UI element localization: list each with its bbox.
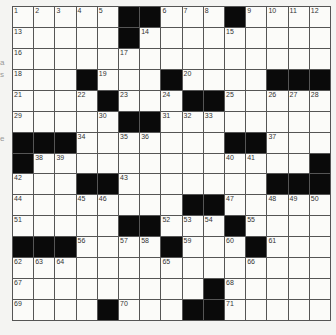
grid-cell[interactable]: 66 — [246, 258, 266, 278]
grid-cell[interactable]: 35 — [119, 133, 139, 153]
grid-cell[interactable] — [140, 279, 160, 299]
grid-cell[interactable]: 30 — [98, 112, 118, 132]
grid-cell[interactable] — [34, 70, 54, 90]
grid-cell[interactable]: 34 — [77, 133, 97, 153]
grid-cell[interactable] — [310, 258, 330, 278]
grid-cell[interactable] — [246, 28, 266, 48]
grid-cell[interactable]: 37 — [267, 133, 287, 153]
grid-cell[interactable] — [267, 216, 287, 236]
grid-cell[interactable]: 60 — [225, 237, 245, 257]
grid-cell[interactable] — [161, 174, 181, 194]
grid-cell[interactable] — [140, 300, 160, 320]
grid-cell[interactable]: 61 — [267, 237, 287, 257]
grid-cell[interactable] — [77, 258, 97, 278]
grid-cell[interactable] — [204, 258, 224, 278]
grid-cell[interactable] — [183, 154, 203, 174]
grid-cell[interactable]: 68 — [225, 279, 245, 299]
grid-cell[interactable] — [246, 300, 266, 320]
grid-cell[interactable] — [289, 279, 309, 299]
grid-cell[interactable]: 7 — [183, 7, 203, 27]
grid-cell[interactable]: 56 — [77, 237, 97, 257]
grid-cell[interactable] — [140, 174, 160, 194]
grid-cell[interactable] — [204, 133, 224, 153]
grid-cell[interactable] — [267, 28, 287, 48]
grid-cell[interactable] — [55, 112, 75, 132]
grid-cell[interactable] — [140, 49, 160, 69]
grid-cell[interactable] — [183, 28, 203, 48]
grid-cell[interactable] — [34, 49, 54, 69]
grid-cell[interactable] — [98, 49, 118, 69]
grid-cell[interactable] — [98, 133, 118, 153]
grid-cell[interactable] — [246, 49, 266, 69]
grid-cell[interactable]: 16 — [13, 49, 33, 69]
grid-cell[interactable]: 64 — [55, 258, 75, 278]
grid-cell[interactable] — [310, 49, 330, 69]
grid-cell[interactable] — [225, 70, 245, 90]
grid-cell[interactable]: 20 — [183, 70, 203, 90]
grid-cell[interactable] — [161, 154, 181, 174]
grid-cell[interactable]: 1 — [13, 7, 33, 27]
grid-cell[interactable] — [34, 174, 54, 194]
grid-cell[interactable] — [77, 28, 97, 48]
grid-cell[interactable] — [246, 174, 266, 194]
grid-cell[interactable] — [310, 216, 330, 236]
grid-cell[interactable]: 63 — [34, 258, 54, 278]
grid-cell[interactable]: 43 — [119, 174, 139, 194]
grid-cell[interactable] — [204, 174, 224, 194]
grid-cell[interactable] — [225, 49, 245, 69]
grid-cell[interactable]: 9 — [246, 7, 266, 27]
grid-cell[interactable] — [161, 28, 181, 48]
grid-cell[interactable] — [161, 195, 181, 215]
grid-cell[interactable] — [34, 300, 54, 320]
grid-cell[interactable] — [34, 216, 54, 236]
grid-cell[interactable] — [77, 112, 97, 132]
grid-cell[interactable]: 45 — [77, 195, 97, 215]
grid-cell[interactable]: 14 — [140, 28, 160, 48]
grid-cell[interactable]: 62 — [13, 258, 33, 278]
grid-cell[interactable]: 13 — [13, 28, 33, 48]
grid-cell[interactable] — [246, 70, 266, 90]
grid-cell[interactable]: 47 — [225, 195, 245, 215]
grid-cell[interactable] — [77, 49, 97, 69]
grid-cell[interactable] — [34, 195, 54, 215]
grid-cell[interactable] — [119, 70, 139, 90]
grid-cell[interactable]: 4 — [77, 7, 97, 27]
grid-cell[interactable] — [289, 300, 309, 320]
grid-cell[interactable] — [119, 279, 139, 299]
grid-cell[interactable] — [140, 154, 160, 174]
grid-cell[interactable]: 21 — [13, 91, 33, 111]
grid-cell[interactable] — [34, 279, 54, 299]
grid-cell[interactable] — [55, 279, 75, 299]
grid-cell[interactable] — [267, 258, 287, 278]
grid-cell[interactable] — [161, 279, 181, 299]
grid-cell[interactable] — [204, 154, 224, 174]
grid-cell[interactable]: 29 — [13, 112, 33, 132]
grid-cell[interactable] — [140, 195, 160, 215]
grid-cell[interactable]: 57 — [119, 237, 139, 257]
grid-cell[interactable] — [225, 112, 245, 132]
grid-cell[interactable] — [289, 133, 309, 153]
grid-cell[interactable] — [183, 279, 203, 299]
grid-cell[interactable] — [204, 28, 224, 48]
grid-cell[interactable] — [183, 133, 203, 153]
grid-cell[interactable] — [140, 258, 160, 278]
grid-cell[interactable]: 58 — [140, 237, 160, 257]
grid-cell[interactable] — [310, 237, 330, 257]
grid-cell[interactable] — [161, 300, 181, 320]
grid-cell[interactable]: 8 — [204, 7, 224, 27]
grid-cell[interactable] — [310, 133, 330, 153]
grid-cell[interactable]: 41 — [246, 154, 266, 174]
grid-cell[interactable] — [267, 112, 287, 132]
grid-cell[interactable] — [183, 174, 203, 194]
grid-cell[interactable]: 40 — [225, 154, 245, 174]
grid-cell[interactable]: 3 — [55, 7, 75, 27]
grid-cell[interactable]: 26 — [267, 91, 287, 111]
grid-cell[interactable] — [55, 174, 75, 194]
grid-cell[interactable] — [119, 258, 139, 278]
grid-cell[interactable] — [161, 133, 181, 153]
grid-cell[interactable]: 59 — [183, 237, 203, 257]
grid-cell[interactable] — [225, 258, 245, 278]
grid-cell[interactable]: 28 — [310, 91, 330, 111]
grid-cell[interactable] — [55, 28, 75, 48]
grid-cell[interactable]: 50 — [310, 195, 330, 215]
